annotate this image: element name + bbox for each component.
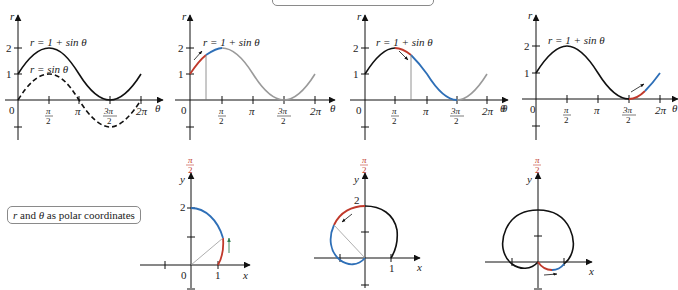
svg-text:1: 1 <box>6 68 12 80</box>
svg-text:2: 2 <box>180 201 186 213</box>
svg-text:3π: 3π <box>450 106 461 116</box>
svg-text:x: x <box>588 265 594 277</box>
svg-text:2: 2 <box>178 42 184 54</box>
svg-text:2: 2 <box>354 194 360 206</box>
svg-text:3π: 3π <box>103 106 114 116</box>
svg-text:2π: 2π <box>482 105 494 117</box>
svg-text:π: π <box>46 106 51 116</box>
svg-text:r = 1 + sin θ: r = 1 + sin θ <box>30 36 87 48</box>
svg-text:0: 0 <box>181 104 187 116</box>
svg-text:x: x <box>242 269 248 281</box>
panel-1-graph: r 2 1 0 r = 1 + sin θ r = sin θ π 2 π 3π… <box>5 10 163 140</box>
svg-text:π: π <box>188 155 193 165</box>
svg-text:1: 1 <box>353 68 359 80</box>
svg-text:r: r <box>182 10 187 22</box>
figure: r 2 1 0 r = 1 + sin θ r = sin θ π 2 π 3π… <box>0 0 678 290</box>
svg-text:r: r <box>10 10 15 22</box>
panel-3-graph: r 2 1 0 r = 1 + sin θ π 2 π 3π 2 2π θ <box>350 10 508 140</box>
svg-text:θ: θ <box>672 102 678 114</box>
panel-4-graph: r 2 1 0 r = 1 + sin θ π 2 π 3π 2 2π θ θ <box>500 9 678 140</box>
svg-text:0: 0 <box>356 104 362 116</box>
svg-text:r: r <box>357 10 362 22</box>
svg-text:r = 1 + sin θ: r = 1 + sin θ <box>376 36 433 48</box>
svg-text:2: 2 <box>6 42 12 54</box>
svg-text:1: 1 <box>178 68 184 80</box>
svg-text:2: 2 <box>219 116 224 126</box>
svg-text:x: x <box>416 261 422 273</box>
svg-text:2: 2 <box>535 165 540 175</box>
svg-text:2π: 2π <box>310 105 322 117</box>
svg-text:2: 2 <box>392 116 397 126</box>
svg-text:2: 2 <box>362 165 367 175</box>
svg-text:π: π <box>219 106 224 116</box>
svg-text:θ: θ <box>500 102 506 114</box>
panel-2-graph: r 2 1 0 r = 1 + sin θ π 2 π 3π 2 2π θ <box>175 10 336 140</box>
svg-text:π: π <box>594 104 600 116</box>
svg-text:π: π <box>535 155 540 165</box>
svg-text:θ: θ <box>155 102 161 114</box>
polar-panel-2: π 2 y 2 1 x <box>314 155 422 288</box>
svg-text:r: r <box>528 9 533 21</box>
svg-text:r = 1 + sin θ: r = 1 + sin θ <box>548 34 605 46</box>
polar-panel-3: π 2 y x <box>485 155 594 289</box>
svg-text:2: 2 <box>353 42 359 54</box>
svg-text:y: y <box>353 173 359 185</box>
svg-text:π: π <box>249 105 255 117</box>
svg-text:π: π <box>362 155 367 165</box>
svg-text:2π: 2π <box>136 105 148 117</box>
polar-panel-1: π 2 y 2 0 1 x <box>140 155 250 289</box>
svg-text:2: 2 <box>454 116 459 126</box>
svg-text:π: π <box>564 105 569 115</box>
svg-text:0: 0 <box>181 269 187 281</box>
svg-text:2: 2 <box>564 115 569 125</box>
svg-text:2: 2 <box>524 40 530 52</box>
svg-text:2π: 2π <box>655 104 667 116</box>
blue-segment <box>206 48 222 55</box>
svg-text:1: 1 <box>389 262 395 274</box>
svg-text:0: 0 <box>9 104 15 116</box>
svg-text:π: π <box>423 105 429 117</box>
svg-text:3π: 3π <box>277 106 288 116</box>
svg-text:π: π <box>75 105 81 117</box>
svg-text:1: 1 <box>524 67 530 79</box>
svg-text:0: 0 <box>530 103 536 115</box>
svg-text:2: 2 <box>188 165 193 175</box>
svg-text:r = 1 + sin θ: r = 1 + sin θ <box>203 36 260 48</box>
svg-text:2: 2 <box>281 116 286 126</box>
svg-text:y: y <box>526 173 532 185</box>
svg-text:2: 2 <box>626 115 631 125</box>
svg-text:y: y <box>179 173 185 185</box>
svg-text:2: 2 <box>107 116 112 126</box>
svg-text:3π: 3π <box>622 105 633 115</box>
svg-text:1: 1 <box>215 269 221 281</box>
svg-text:r = sin θ: r = sin θ <box>30 63 69 75</box>
svg-text:2: 2 <box>46 116 51 126</box>
svg-text:π: π <box>392 106 397 116</box>
svg-text:θ: θ <box>330 102 336 114</box>
red-segment <box>190 55 206 74</box>
